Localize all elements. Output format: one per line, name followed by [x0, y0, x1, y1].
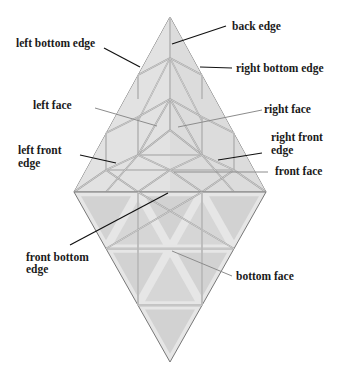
label-back-edge: back edge [232, 20, 281, 33]
label-bottom-face: bottom face [236, 270, 294, 282]
bottom-face-stickers [81, 196, 259, 354]
label-right-face: right face [264, 103, 311, 116]
label-front-bottom-edge-1: front bottom [26, 251, 89, 263]
label-front-face: front face [275, 165, 322, 177]
label-front-bottom-edge-2: edge [26, 263, 48, 276]
label-left-front-edge-2: edge [18, 157, 40, 170]
label-left-front-edge-1: left front [18, 144, 62, 156]
pyraminx-diagram: back edge left bottom edge right bottom … [0, 0, 341, 377]
label-right-front-edge-2: edge [271, 144, 293, 157]
leader-right-bottom-edge [200, 67, 232, 68]
leader-left-bottom-edge [104, 48, 140, 67]
label-right-bottom-edge: right bottom edge [236, 62, 324, 75]
label-left-bottom-edge: left bottom edge [16, 37, 95, 50]
label-left-face: left face [33, 99, 72, 111]
label-right-front-edge-1: right front [271, 131, 323, 144]
